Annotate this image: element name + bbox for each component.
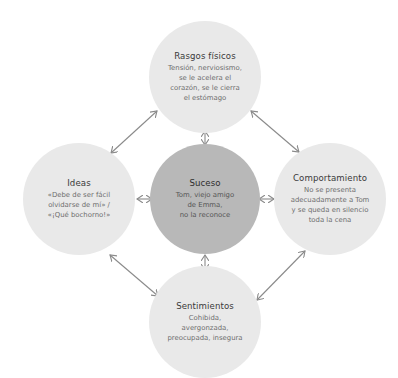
node-line: No se presenta [291, 185, 370, 195]
node-line: Tensión, nerviosismo, [168, 63, 242, 73]
node-body: Cohibida, avergonzada, preocupada, inseg… [167, 313, 242, 343]
arrow-left-bottom [110, 255, 158, 296]
node-line: «¡Qué bochorno!» [48, 210, 110, 220]
arrow-right-bottom [257, 251, 305, 300]
node-title: Ideas [67, 178, 91, 189]
node-line: Cohibida, [167, 313, 242, 323]
node-line: «Debe de ser fácil [48, 190, 110, 200]
node-line: olvidarse de mí» / [48, 200, 110, 210]
node-line: toda la cena [291, 215, 370, 225]
node-line: de Emma, [176, 200, 234, 210]
node-title: Comportamiento [293, 173, 367, 184]
node-line: preocupada, insegura [167, 333, 242, 343]
node-ideas: Ideas «Debe de ser fácil olvidarse de mí… [23, 143, 135, 255]
arrow-top-left [111, 111, 157, 153]
arrow-top-right [251, 111, 299, 152]
node-line: adecuadamente a Tom [291, 195, 370, 205]
node-title: Sentimientos [176, 301, 234, 312]
node-title: Suceso [189, 178, 220, 189]
node-line: se le acelera el [168, 73, 242, 83]
node-comportamiento: Comportamiento No se presenta adecuadame… [274, 143, 386, 255]
node-line: el estómago [168, 93, 242, 103]
node-line: avergonzada, [167, 323, 242, 333]
node-line: Tom, viejo amigo [176, 190, 234, 200]
node-body: «Debe de ser fácil olvidarse de mí» / «¡… [48, 190, 110, 220]
node-line: no la reconoce [176, 210, 234, 220]
node-rasgos-fisicos: Rasgos físicos Tensión, nerviosismo, se … [149, 21, 261, 133]
node-line: y se queda en silencio [291, 205, 370, 215]
node-suceso: Suceso Tom, viejo amigo de Emma, no la r… [150, 144, 260, 254]
node-line: corazón, se le cierra [168, 83, 242, 93]
node-body: No se presenta adecuadamente a Tom y se … [291, 185, 370, 225]
node-sentimientos: Sentimientos Cohibida, avergonzada, preo… [149, 266, 261, 378]
node-title: Rasgos físicos [174, 51, 236, 62]
node-body: Tom, viejo amigo de Emma, no la reconoce [176, 190, 234, 220]
node-body: Tensión, nerviosismo, se le acelera el c… [168, 63, 242, 103]
